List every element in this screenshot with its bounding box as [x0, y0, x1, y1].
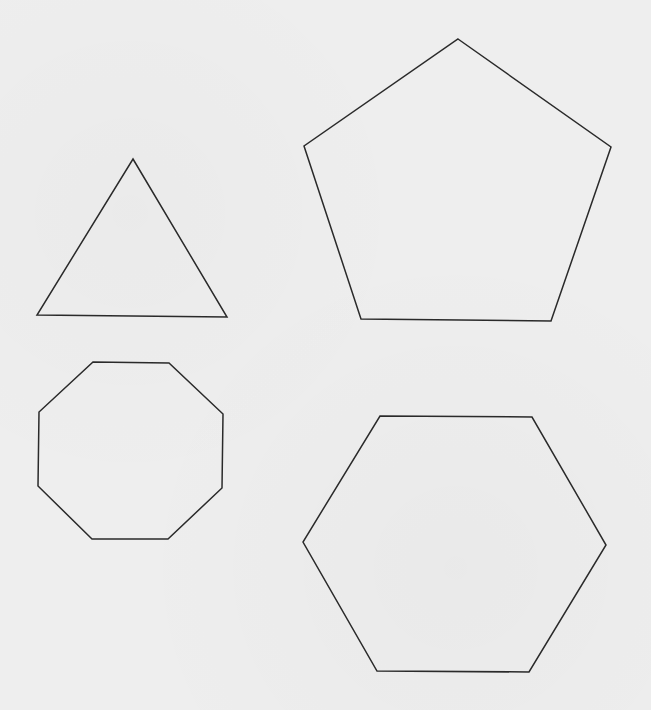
shapes-diagram: [0, 0, 651, 710]
hexagon-shape: [303, 416, 606, 672]
pentagon-shape: [304, 39, 611, 321]
octagon-shape: [38, 362, 223, 539]
triangle-shape: [37, 159, 227, 317]
paper-canvas: [0, 0, 651, 710]
